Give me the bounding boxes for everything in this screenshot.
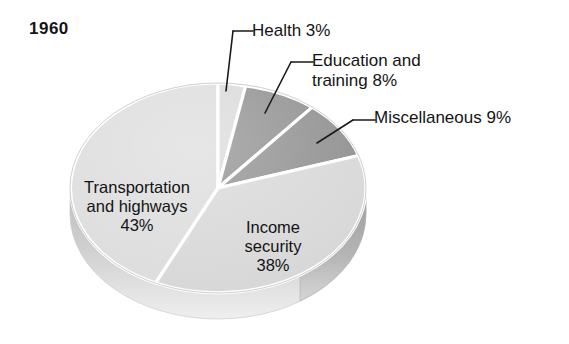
slice-label-transportation-line1: Transportation <box>62 178 212 197</box>
slice-label-health: Health 3% <box>252 21 330 41</box>
slice-label-income-security: Income security 38% <box>228 218 318 275</box>
slice-label-income-line3: 38% <box>228 256 318 275</box>
slice-label-income-line2: security <box>228 237 318 256</box>
pie-chart-graphic <box>0 0 569 344</box>
slice-label-education-line1: Education and <box>312 51 421 71</box>
slice-label-transportation-line3: 43% <box>62 216 212 235</box>
slice-label-miscellaneous-text: Miscellaneous 9% <box>374 108 511 128</box>
slice-label-health-text: Health 3% <box>252 21 330 41</box>
slice-label-income-line1: Income <box>228 218 318 237</box>
leader-line-health <box>226 31 233 91</box>
slice-label-transportation-line2: and highways <box>62 197 212 216</box>
slice-label-education-line2: training 8% <box>312 71 421 91</box>
slice-label-education: Education and training 8% <box>312 51 421 91</box>
slice-label-miscellaneous: Miscellaneous 9% <box>374 108 511 128</box>
pie-chart-figure: 1960 <box>0 0 569 344</box>
slice-label-transportation: Transportation and highways 43% <box>62 178 212 235</box>
